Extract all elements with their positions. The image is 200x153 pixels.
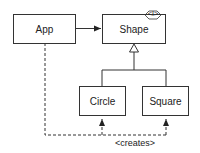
class-square: Square bbox=[142, 86, 189, 116]
class-app: App bbox=[13, 14, 76, 44]
creates-label: <creates> bbox=[105, 138, 165, 148]
class-shape-label: Shape bbox=[120, 24, 149, 35]
class-app-label: App bbox=[36, 24, 54, 35]
class-circle: Circle bbox=[79, 86, 126, 116]
class-square-label: Square bbox=[149, 96, 181, 107]
interface-stereotype: <I> bbox=[146, 9, 160, 19]
inheritance-triangle-icon bbox=[130, 44, 139, 52]
uml-diagram: App Shape <I> Circle Square <creates> bbox=[0, 0, 200, 153]
class-circle-label: Circle bbox=[90, 96, 116, 107]
